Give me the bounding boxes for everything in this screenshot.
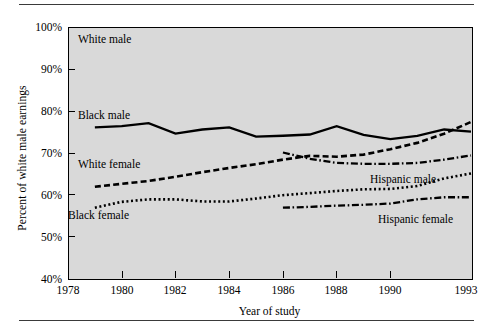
y-tick-label-100: 100%: [0, 22, 62, 34]
y-tick-mark-90: [68, 69, 75, 70]
y-tick-mark-80: [68, 111, 75, 112]
series-annotation-hispanic-male: Hispanic male: [370, 174, 436, 186]
y-tick-mark-60: [68, 194, 75, 195]
x-tick-label-1984: 1984: [201, 285, 257, 297]
x-tick-label-1990: 1990: [362, 285, 418, 297]
x-tick-mark-1982: [175, 271, 176, 278]
series-annotation-black-male: Black male: [78, 110, 130, 122]
x-tick-label-1986: 1986: [255, 285, 311, 297]
x-tick-mark-1986: [283, 271, 284, 278]
y-tick-label-50: 50%: [0, 232, 62, 244]
x-tick-mark-1984: [229, 271, 230, 278]
y-tick-label-90: 90%: [0, 64, 62, 76]
series-annotation-white-female: White female: [78, 159, 140, 171]
y-tick-label-70: 70%: [0, 148, 62, 160]
x-tick-mark-1980: [122, 271, 123, 278]
y-tick-label-80: 80%: [0, 106, 62, 118]
y-tick-mark-70: [68, 153, 75, 154]
x-tick-label-1993: 1993: [438, 285, 489, 297]
line-chart-figure: Percent of white male earnings 100% 90% …: [0, 0, 489, 327]
x-tick-mark-1988: [336, 271, 337, 278]
plot-area: [68, 27, 473, 280]
x-tick-label-1978: 1978: [40, 285, 96, 297]
y-tick-label-40: 40%: [0, 274, 62, 286]
series-annotation-black-female: Black female: [68, 210, 129, 222]
x-tick-label-1988: 1988: [308, 285, 364, 297]
x-tick-label-1982: 1982: [147, 285, 203, 297]
x-axis-title: Year of study: [68, 305, 471, 317]
y-tick-mark-50: [68, 236, 75, 237]
series-annotation-hispanic-female: Hispanic female: [378, 214, 453, 226]
series-annotation-white-male: White male: [78, 34, 131, 46]
x-tick-label-1980: 1980: [94, 285, 150, 297]
x-tick-mark-1990: [390, 271, 391, 278]
y-tick-label-60: 60%: [0, 190, 62, 202]
